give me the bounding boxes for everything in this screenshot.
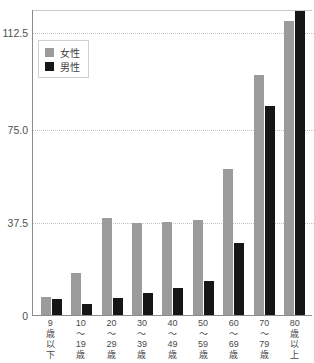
bar-female-30-39 [132,223,142,315]
legend-label-female: 女性 [60,45,80,60]
y-tick-label-37-5: 37.5 [0,217,28,229]
y-tick-label-0: 0 [0,310,28,322]
bar-male-30-39 [143,293,153,315]
x-tick-label-30-39: 30 〜 39 歳 [127,318,158,360]
legend-item-female: 女性 [45,45,80,59]
bar-male-60-69 [234,243,244,315]
bar-female-40-49 [162,222,172,315]
bar-male-80-and-over [295,11,305,315]
bar-group-50-59 [188,10,218,315]
legend-item-male: 男性 [45,59,80,73]
bar-male-70-79 [265,106,275,315]
y-tick-label-112-5: 112.5 [0,27,28,39]
legend-swatch-male-icon [45,62,54,71]
bar-female-70-79 [254,75,264,315]
bar-female-60-69 [223,169,233,315]
x-tick-label-20-29: 20 〜 29 歳 [96,318,127,360]
bar-female-9-and-under [41,297,51,315]
bar-female-50-59 [193,220,203,315]
bar-male-10-19 [82,304,92,315]
bar-group-20-29 [97,10,127,315]
bar-group-70-79 [249,10,279,315]
bar-group-80-and-over [280,10,310,315]
bar-male-20-29 [113,298,123,315]
x-tick-label-10-19: 10 〜 19 歳 [66,318,97,360]
x-tick-label-60-69: 60 〜 69 歳 [218,318,249,360]
bar-chart: 112.5 75.0 37.5 0 [0,0,314,363]
legend-swatch-female-icon [45,48,54,57]
bar-male-40-49 [173,288,183,315]
x-tick-label-9-and-under: 9 歳 以 下 [35,318,66,360]
x-axis-labels: 9 歳 以 下 10 〜 19 歳 20 〜 29 歳 30 〜 39 歳 40… [32,318,312,360]
chart-legend: 女性 男性 [38,40,89,78]
x-tick-label-80-and-over: 80 歳 以 上 [280,318,311,360]
bar-female-20-29 [102,218,112,315]
y-tick-label-75-0: 75.0 [0,124,28,136]
x-tick-label-70-79: 70 〜 79 歳 [249,318,280,360]
bar-group-30-39 [127,10,157,315]
x-tick-label-40-49: 40 〜 49 歳 [157,318,188,360]
bar-male-50-59 [204,281,214,315]
bar-female-80-and-over [284,21,294,315]
bar-female-10-19 [71,273,81,315]
legend-label-male: 男性 [60,59,80,74]
x-tick-label-50-59: 50 〜 59 歳 [188,318,219,360]
bar-group-60-69 [219,10,249,315]
bar-male-9-and-under [52,299,62,315]
bar-group-40-49 [158,10,188,315]
